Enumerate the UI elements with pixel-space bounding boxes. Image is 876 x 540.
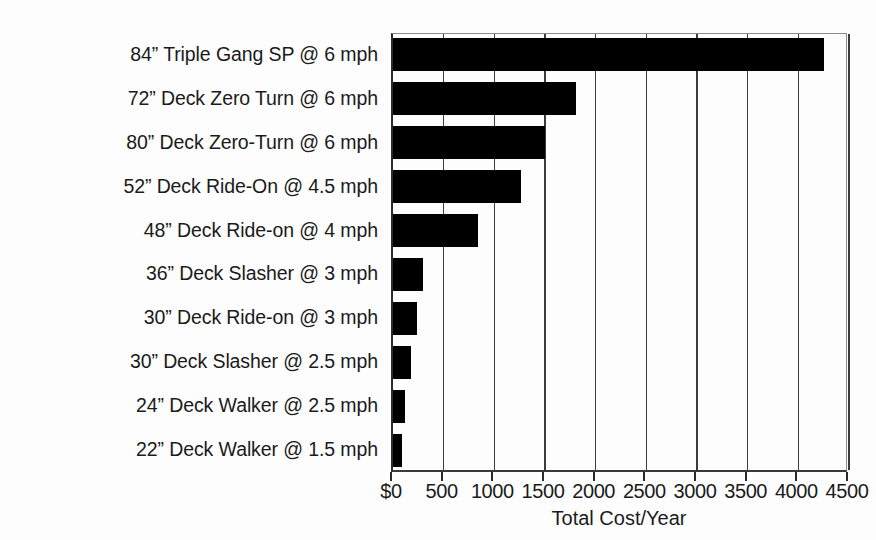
category-label: 72” Deck Zero Turn @ 6 mph	[0, 87, 378, 109]
gridline	[848, 34, 850, 470]
bar	[393, 82, 576, 115]
category-label: 22” Deck Walker @ 1.5 mph	[0, 438, 378, 460]
chart-page: 84” Triple Gang SP @ 6 mph72” Deck Zero …	[0, 0, 876, 540]
bar	[393, 302, 417, 335]
category-label: 48” Deck Ride-on @ 4 mph	[0, 219, 378, 241]
plot-area	[391, 33, 847, 472]
gridline	[798, 34, 800, 470]
x-axis-title: Total Cost/Year	[391, 506, 847, 530]
bar	[393, 126, 545, 159]
category-label: 30” Deck Slasher @ 2.5 mph	[0, 350, 378, 372]
gridline	[646, 34, 648, 470]
x-axis-tick-label: 4500	[817, 479, 876, 503]
bar	[393, 38, 824, 71]
bar	[393, 390, 405, 423]
category-label: 52” Deck Ride-On @ 4.5 mph	[0, 175, 378, 197]
gridline	[696, 34, 698, 470]
category-label: 30” Deck Ride-on @ 3 mph	[0, 306, 378, 328]
category-label: 36” Deck Slasher @ 3 mph	[0, 262, 378, 284]
category-label: 84” Triple Gang SP @ 6 mph	[0, 43, 378, 65]
bar	[393, 346, 411, 379]
gridline	[747, 34, 749, 470]
bar	[393, 170, 521, 203]
gridline	[595, 34, 597, 470]
category-label: 80” Deck Zero-Turn @ 6 mph	[0, 131, 378, 153]
category-label: 24” Deck Walker @ 2.5 mph	[0, 394, 378, 416]
category-label-column: 84” Triple Gang SP @ 6 mph72” Deck Zero …	[0, 33, 378, 472]
bar	[393, 258, 423, 291]
bar	[393, 214, 478, 247]
bar	[393, 434, 402, 467]
